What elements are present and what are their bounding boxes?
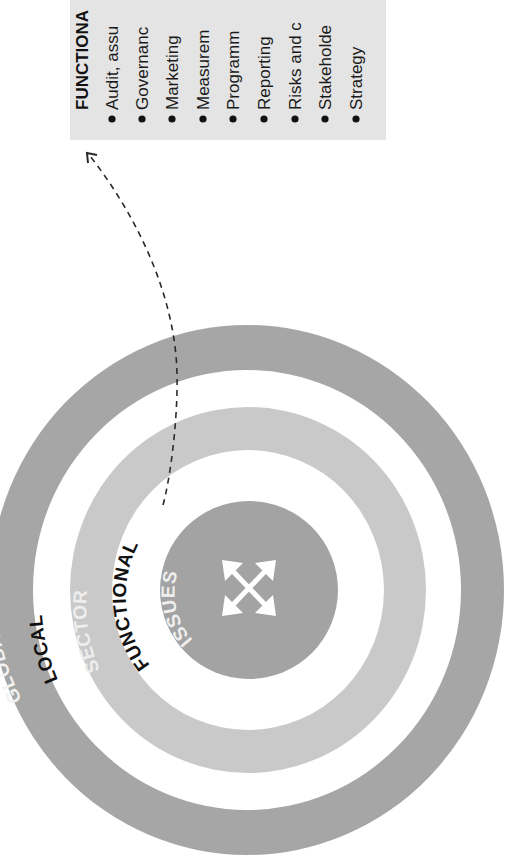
list-item: Marketing (163, 35, 182, 122)
list-item-label: Marketing (163, 35, 182, 110)
list-item-label: Programm (224, 31, 243, 110)
bullet-icon (138, 115, 145, 122)
callout-list: Audit, assu Governanc Marketing Measurem… (103, 22, 366, 123)
callout-box: FUNCTIONA Audit, assu Governanc Marketin… (70, 0, 386, 140)
list-item-label: Governanc (133, 26, 152, 110)
bullet-icon (260, 115, 267, 122)
list-item-label: Audit, assu (103, 26, 122, 110)
list-item: Audit, assu (103, 26, 122, 123)
list-item-label: Risks and c (286, 22, 305, 110)
bullet-icon (229, 115, 236, 122)
list-item-label: Reporting (255, 36, 274, 110)
list-item-label: Strategy (347, 46, 366, 110)
list-item-label: Stakeholde (316, 25, 335, 110)
bullet-icon (352, 115, 359, 122)
bullet-icon (291, 115, 298, 122)
list-item: Governanc (133, 26, 152, 122)
callout-heading: FUNCTIONA (73, 10, 92, 110)
list-item-label: Measurem (194, 30, 213, 110)
list-item: Programm (224, 31, 243, 123)
bullet-icon (321, 115, 328, 122)
concentric-circles-diagram: FUNCTIONA Audit, assu Governanc Marketin… (0, 0, 509, 866)
bullet-icon (168, 115, 175, 122)
bullet-icon (108, 115, 115, 122)
list-item: Measurem (194, 30, 213, 123)
bullet-icon (199, 115, 206, 122)
list-item: Reporting (255, 36, 274, 122)
list-item: Risks and c (286, 22, 305, 123)
list-item: Stakeholde (316, 25, 335, 123)
